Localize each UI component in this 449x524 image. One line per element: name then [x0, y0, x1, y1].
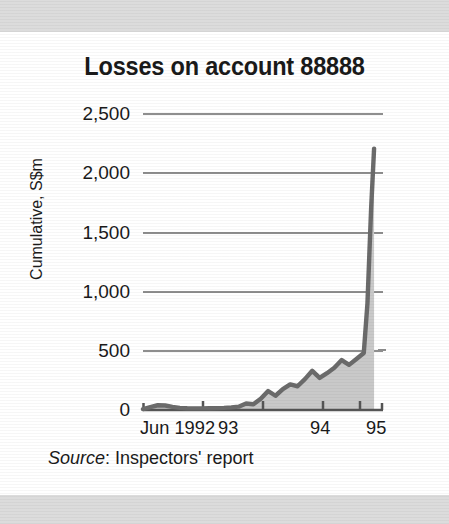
x-tick-label: 95	[366, 417, 386, 439]
chart-figure: Losses on account 88888 Cumulative, S$m …	[0, 32, 449, 495]
source-text: : Inspectors' report	[105, 448, 254, 468]
x-tick-label: 93	[218, 417, 238, 439]
x-tick-label: Jun 1992	[140, 417, 215, 439]
source-label: Source	[48, 448, 105, 468]
scan-band-bottom	[0, 495, 449, 524]
x-tick-label: 94	[310, 417, 330, 439]
scan-band-top	[0, 0, 449, 32]
x-axis-tick-labels: Jun 1992 93 94 95	[0, 32, 449, 495]
source-note: Source: Inspectors' report	[48, 448, 254, 469]
plot-area: Cumulative, S$m 2,500 2,000 1,500 1,000 …	[0, 32, 449, 495]
